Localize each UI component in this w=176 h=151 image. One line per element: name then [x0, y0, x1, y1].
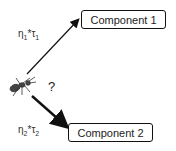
component-1-label: Component 1 — [90, 14, 156, 26]
component-1-box: Component 1 — [81, 10, 166, 29]
ant-icon — [9, 77, 36, 96]
edge-2-label: η2*τ2 — [18, 124, 39, 137]
component-2-box: Component 2 — [68, 123, 153, 142]
edge-to-component-2 — [32, 96, 66, 126]
component-2-label: Component 2 — [77, 127, 143, 139]
edge-1-label: η1*τ1 — [18, 28, 39, 41]
question-mark: ? — [48, 79, 55, 94]
